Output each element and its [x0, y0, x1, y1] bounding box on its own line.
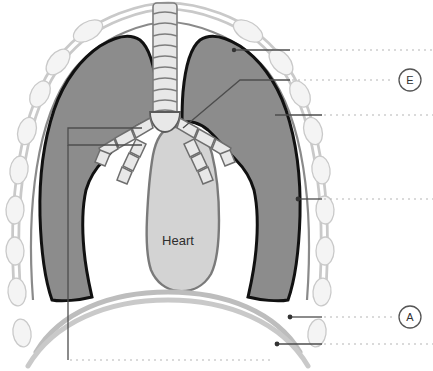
trachea	[150, 3, 180, 132]
diagram-canvas: E A Heart	[0, 0, 433, 371]
left-lung	[40, 36, 158, 301]
callout-marker-e-label: E	[406, 74, 413, 86]
diaphragm	[28, 292, 308, 366]
heart	[147, 127, 219, 292]
thoracic-diagram-svg: E A Heart	[0, 0, 433, 371]
callout-marker-a-label: A	[406, 311, 414, 323]
heart-label: Heart	[162, 233, 194, 248]
callout-marker-a[interactable]: A	[399, 306, 421, 328]
callout-marker-e[interactable]: E	[399, 69, 421, 91]
